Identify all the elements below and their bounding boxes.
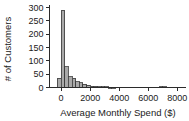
- y-tick-label: 150: [28, 43, 43, 53]
- histogram-bar: [57, 78, 61, 87]
- x-tick-label: 2000: [80, 93, 100, 103]
- histogram-chart: 050100150200250300 02000400060008000 # o…: [0, 0, 189, 121]
- x-tick-label: 6000: [138, 93, 158, 103]
- y-tick-label: 50: [33, 69, 43, 79]
- y-tick-label: 250: [28, 16, 43, 26]
- histogram-bar: [76, 82, 80, 88]
- x-tick-label: 0: [59, 93, 64, 103]
- histogram-bar: [61, 10, 65, 87]
- histogram-bar: [68, 77, 72, 88]
- chart-canvas: 050100150200250300 02000400060008000 # o…: [0, 0, 189, 121]
- y-tick-label: 100: [28, 56, 43, 66]
- y-tick-label: 0: [38, 83, 43, 93]
- histogram-bar: [72, 78, 76, 87]
- histogram-bar: [65, 67, 69, 88]
- histogram-bar: [79, 83, 83, 88]
- y-tick-label: 200: [28, 29, 43, 39]
- x-axis-title: Average Monthly Spend ($): [60, 107, 175, 118]
- x-tick-label: 4000: [109, 93, 129, 103]
- y-axis-title: # of Customers: [2, 17, 13, 82]
- x-tick-label: 8000: [167, 93, 187, 103]
- y-tick-label: 300: [28, 3, 43, 13]
